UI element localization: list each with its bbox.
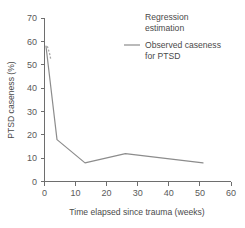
x-axis-title: Time elapsed since trauma (weeks)	[69, 207, 204, 217]
y-tick-label-60: 60	[27, 37, 37, 47]
legend-entry-regression-line2: estimation	[145, 23, 184, 33]
y-tick-label-40: 40	[27, 83, 37, 93]
y-tick-label-30: 30	[27, 107, 37, 117]
x-tick-label-0: 0	[42, 188, 47, 198]
y-axis-title: PTSD caseness (%)	[6, 61, 16, 139]
x-tick-label-20: 20	[102, 188, 112, 198]
ptsd-caseness-line-chart: 0 10 20 30 40 50 60 70 0 10 20 30 40 50 …	[0, 0, 245, 228]
y-tick-label-70: 70	[27, 13, 37, 23]
x-tick-label-40: 40	[164, 188, 174, 198]
legend-entry-observed-line1: Observed caseness	[145, 40, 221, 50]
y-tick-label-20: 20	[27, 130, 37, 140]
y-tick-label-50: 50	[27, 60, 37, 70]
y-tick-label-10: 10	[27, 153, 37, 163]
y-tick-label-0: 0	[32, 177, 37, 187]
x-tick-label-30: 30	[133, 188, 143, 198]
x-tick-label-10: 10	[71, 188, 81, 198]
legend-entry-regression-line1: Regression	[145, 12, 189, 22]
legend-entry-observed-line2: for PTSD	[145, 51, 180, 61]
x-tick-label-60: 60	[226, 188, 236, 198]
chart-container: 0 10 20 30 40 50 60 70 0 10 20 30 40 50 …	[0, 0, 245, 228]
x-tick-label-50: 50	[195, 188, 205, 198]
